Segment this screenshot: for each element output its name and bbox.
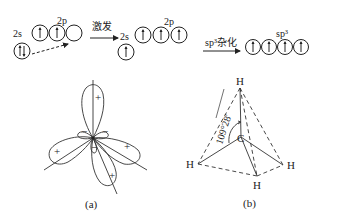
svg-text:+: + bbox=[124, 140, 130, 152]
atom-h-right: H bbox=[287, 159, 295, 171]
excited-state-config: 2s 2p bbox=[118, 16, 187, 60]
atom-h-left: H bbox=[186, 158, 194, 170]
excitation-label: 激发 bbox=[92, 20, 112, 32]
excitation-arrow: 激发 bbox=[90, 20, 118, 38]
orbitals-2p-ground bbox=[32, 25, 82, 41]
svg-text:−: − bbox=[81, 125, 87, 137]
label-2s-ground: 2s bbox=[13, 28, 22, 39]
ground-state-config: 2s 2p bbox=[13, 15, 82, 59]
atom-c: C bbox=[237, 132, 244, 144]
svg-text:+: + bbox=[54, 145, 60, 157]
label-sp3: sp³ bbox=[276, 28, 288, 39]
svg-text:+: + bbox=[109, 169, 115, 181]
label-2p-excited: 2p bbox=[164, 16, 174, 27]
label-2p-ground: 2p bbox=[57, 15, 67, 26]
svg-text:−: − bbox=[91, 141, 97, 153]
hybridization-label: sp³杂化 bbox=[205, 36, 237, 48]
atom-h-bottom: H bbox=[253, 179, 261, 191]
atom-h-top: H bbox=[236, 75, 244, 87]
hybrid-state-config: sp³ bbox=[246, 28, 309, 55]
svg-text:−: − bbox=[102, 125, 108, 137]
label-2s-excited: 2s bbox=[120, 31, 129, 42]
promotion-dashed-arrow bbox=[32, 44, 68, 54]
caption-a: (a) bbox=[85, 198, 98, 211]
hybridization-arrow: sp³杂化 bbox=[203, 36, 240, 51]
orbital-2s-ground bbox=[14, 43, 30, 59]
caption-b: (b) bbox=[243, 197, 256, 210]
sp3-hybridization-diagram: 2s 2p 激发 2s 2p sp³杂化 bbox=[0, 0, 338, 222]
svg-text:+: + bbox=[95, 91, 101, 103]
